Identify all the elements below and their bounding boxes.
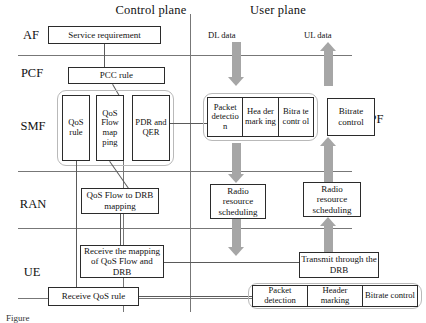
box-upf-bitrate-control[interactable]: Bitrate control (327, 98, 375, 136)
row-label-pcf: PCF (10, 66, 54, 81)
box-receive-mapping-qos-flow-drb[interactable]: Receive the mapping of QoS Flow and DRB (80, 245, 164, 278)
separator-smf-ran (18, 171, 352, 172)
cell-ue-bitrate-control[interactable]: Bitrate control (363, 286, 417, 306)
arrow-upf-to-ul-data (320, 42, 337, 86)
separator-af-pcf (18, 55, 352, 56)
arrow-dl-data-to-upf (228, 42, 245, 86)
link-receive-qos-rule-to-ue-strip (139, 296, 252, 297)
label-dl-data: DL data (208, 30, 236, 40)
box-receive-qos-rule[interactable]: Receive QoS rule (48, 287, 139, 306)
cell-packet-detection[interactable]: Packet detectio n (208, 98, 243, 136)
box-qos-flow-to-drb-mapping[interactable]: QoS Flow to DRB mapping (81, 188, 159, 214)
box-radio-resource-scheduling-ul[interactable]: Radio resource scheduling (303, 182, 361, 217)
link-qos-rule-to-ue (76, 161, 77, 296)
separator-ran-ue (18, 228, 352, 229)
row-label-ue: UE (12, 265, 52, 280)
cell-ue-packet-detection[interactable]: Packet detection (253, 286, 308, 306)
user-plane-heading: User plane (228, 3, 328, 18)
plane-divider-left (190, 14, 191, 312)
box-service-requirement[interactable]: Service requirement (48, 26, 161, 44)
row-label-smf: SMF (10, 119, 56, 134)
box-pdr-and-qer[interactable]: PDR and QER (132, 95, 170, 161)
box-qos-flow-mapping[interactable]: QoS Flow map ping (96, 95, 124, 161)
arrow-radio-dl-to-ue (228, 219, 245, 256)
arrow-upf-to-radio-dl (228, 143, 245, 183)
link-af-to-pcf (104, 44, 105, 67)
ue-function-strip: Packet detection Header marking Bitrate … (252, 285, 418, 307)
label-ul-data: UL data (304, 30, 332, 40)
figure-caption: Figure (6, 313, 30, 323)
upf-function-strip: Packet detectio n Hea der mark ing Bitra… (207, 97, 314, 137)
box-qos-rule[interactable]: QoS rule (62, 95, 90, 161)
row-label-ran: RAN (8, 197, 58, 212)
cell-bitrate-control[interactable]: Bitra te contr ol (279, 98, 313, 136)
arrow-ue-transmit-to-radio-ul (320, 217, 337, 254)
row-label-af: AF (14, 28, 48, 43)
box-radio-resource-scheduling-dl[interactable]: Radio resource scheduling (210, 184, 266, 219)
cell-header-marking[interactable]: Hea der mark ing (243, 98, 278, 136)
arrow-radio-ul-to-upf (320, 137, 337, 183)
link-drb-mapping-to-ue (120, 214, 121, 245)
box-pcc-rule[interactable]: PCC rule (68, 67, 165, 84)
box-transmit-through-drb[interactable]: Transmit through the DRB (299, 252, 379, 278)
cell-ue-header-marking[interactable]: Header marking (308, 286, 363, 306)
link-receive-mapping-to-transmit (164, 262, 299, 263)
